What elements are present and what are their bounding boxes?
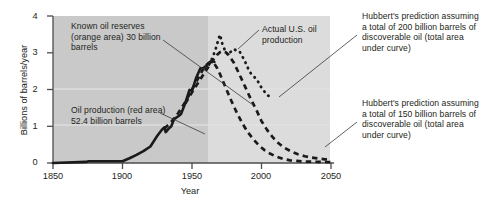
x-tick-label-1900: 1900 xyxy=(106,171,138,181)
y-axis-title: Billions of barrels/year xyxy=(19,20,29,160)
annotation-hubbert-prediction-200: Hubbert's prediction assuming a total of… xyxy=(362,11,482,53)
x-tick-label-2000: 2000 xyxy=(245,171,277,181)
annotation-oil-production: Oil production (red area) 52.4 billion b… xyxy=(71,105,167,126)
x-tick-label-1950: 1950 xyxy=(176,171,208,181)
x-tick-label-1850: 1850 xyxy=(37,171,69,181)
y-tick-label-3: 3 xyxy=(28,47,42,57)
annotation-actual-us-oil-production: Actual U.S. oil production xyxy=(262,24,334,45)
annotation-hubbert-prediction-150: Hubbert's prediction assuming a total of… xyxy=(362,98,482,140)
y-tick-label-4: 4 xyxy=(28,11,42,21)
x-axis-title: Year xyxy=(150,186,230,196)
y-tick-label-2: 2 xyxy=(28,84,42,94)
y-tick-label-0: 0 xyxy=(28,157,42,167)
hubbert-peak-chart: 4 3 2 1 0 1850 1900 1950 2000 2050 Billi… xyxy=(0,0,483,210)
y-tick-label-1: 1 xyxy=(28,121,42,131)
annotation-known-oil-reserves: Known oil reserves (orange area) 30 bill… xyxy=(71,21,167,53)
x-tick-label-2050: 2050 xyxy=(315,171,347,181)
